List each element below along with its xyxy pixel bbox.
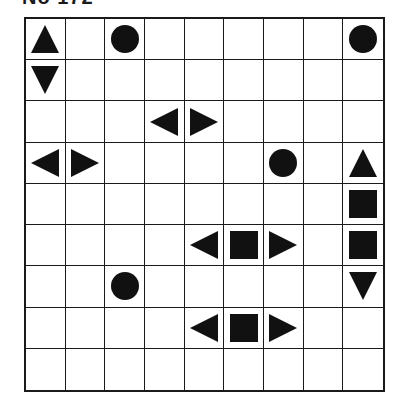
grid-cell-r6-c3[interactable] [145, 266, 185, 307]
grid-cell-r1-c5[interactable] [224, 60, 264, 101]
grid-cell-r0-c0[interactable] [26, 19, 66, 60]
grid-cell-r6-c5[interactable] [224, 266, 264, 307]
grid-cell-r2-c8[interactable] [343, 101, 383, 142]
grid-cell-r8-c7[interactable] [304, 349, 344, 390]
grid-cell-r3-c6[interactable] [264, 143, 304, 184]
grid-cell-r4-c8[interactable] [343, 184, 383, 225]
grid-cell-r8-c5[interactable] [224, 349, 264, 390]
grid-cell-r3-c2[interactable] [105, 143, 145, 184]
grid-cell-r5-c4[interactable] [185, 225, 225, 266]
grid-cell-r2-c3[interactable] [145, 101, 185, 142]
grid-cell-r1-c1[interactable] [66, 60, 106, 101]
grid-cell-r1-c8[interactable] [343, 60, 383, 101]
grid-cell-r0-c4[interactable] [185, 19, 225, 60]
grid-cell-r4-c7[interactable] [304, 184, 344, 225]
grid-cell-r8-c6[interactable] [264, 349, 304, 390]
grid-cell-r3-c7[interactable] [304, 143, 344, 184]
triangle-left-icon [189, 230, 219, 260]
grid-cell-r7-c3[interactable] [145, 308, 185, 349]
grid-cell-r6-c1[interactable] [66, 266, 106, 307]
grid-cell-r2-c7[interactable] [304, 101, 344, 142]
grid-cell-r6-c6[interactable] [264, 266, 304, 307]
grid-cell-r7-c7[interactable] [304, 308, 344, 349]
grid-cell-r6-c4[interactable] [185, 266, 225, 307]
grid-cell-r3-c3[interactable] [145, 143, 185, 184]
grid-cell-r2-c6[interactable] [264, 101, 304, 142]
grid-cell-r7-c2[interactable] [105, 308, 145, 349]
grid-cell-r0-c1[interactable] [66, 19, 106, 60]
grid-cell-r1-c6[interactable] [264, 60, 304, 101]
grid-cell-r5-c7[interactable] [304, 225, 344, 266]
grid-cell-r8-c8[interactable] [343, 349, 383, 390]
grid-cell-r6-c7[interactable] [304, 266, 344, 307]
grid-cell-r8-c4[interactable] [185, 349, 225, 390]
circle-icon [110, 271, 140, 301]
triangle-up-icon [348, 148, 378, 178]
grid-cell-r6-c8[interactable] [343, 266, 383, 307]
grid-cell-r2-c5[interactable] [224, 101, 264, 142]
grid-cell-r5-c1[interactable] [66, 225, 106, 266]
grid-cell-r4-c3[interactable] [145, 184, 185, 225]
grid-cell-r4-c0[interactable] [26, 184, 66, 225]
triangle-right-icon [268, 230, 298, 260]
triangle-right-icon [189, 107, 219, 137]
grid-cell-r2-c4[interactable] [185, 101, 225, 142]
grid-cell-r0-c7[interactable] [304, 19, 344, 60]
grid-cell-r1-c7[interactable] [304, 60, 344, 101]
grid-cell-r4-c2[interactable] [105, 184, 145, 225]
circle-icon [110, 24, 140, 54]
square-icon [229, 230, 259, 260]
grid-cell-r1-c0[interactable] [26, 60, 66, 101]
grid-cell-r1-c2[interactable] [105, 60, 145, 101]
grid-cell-r4-c5[interactable] [224, 184, 264, 225]
grid-cell-r7-c4[interactable] [185, 308, 225, 349]
grid-cell-r4-c6[interactable] [264, 184, 304, 225]
grid-cell-r6-c2[interactable] [105, 266, 145, 307]
grid-cell-r5-c3[interactable] [145, 225, 185, 266]
grid-cell-r8-c3[interactable] [145, 349, 185, 390]
grid-cell-r8-c1[interactable] [66, 349, 106, 390]
grid-cell-r5-c0[interactable] [26, 225, 66, 266]
grid-cell-r0-c2[interactable] [105, 19, 145, 60]
grid-cell-r2-c2[interactable] [105, 101, 145, 142]
grid-cell-r7-c8[interactable] [343, 308, 383, 349]
grid-cell-r5-c2[interactable] [105, 225, 145, 266]
grid-cell-r5-c8[interactable] [343, 225, 383, 266]
grid-cell-r3-c5[interactable] [224, 143, 264, 184]
grid-cell-r0-c6[interactable] [264, 19, 304, 60]
grid-cell-r2-c0[interactable] [26, 101, 66, 142]
grid-cell-r6-c0[interactable] [26, 266, 66, 307]
triangle-right-icon [70, 148, 100, 178]
grid-cell-r5-c5[interactable] [224, 225, 264, 266]
grid-cell-r1-c4[interactable] [185, 60, 225, 101]
triangle-right-icon [268, 313, 298, 343]
grid-cell-r4-c1[interactable] [66, 184, 106, 225]
grid-cell-r0-c8[interactable] [343, 19, 383, 60]
grid-cell-r1-c3[interactable] [145, 60, 185, 101]
grid-cell-r7-c1[interactable] [66, 308, 106, 349]
triangle-left-icon [189, 313, 219, 343]
triangle-down-icon [30, 65, 60, 95]
grid-cell-r3-c8[interactable] [343, 143, 383, 184]
triangle-left-icon [30, 148, 60, 178]
triangle-up-icon [30, 24, 60, 54]
grid-cell-r3-c4[interactable] [185, 143, 225, 184]
grid-cell-r7-c6[interactable] [264, 308, 304, 349]
grid-cell-r0-c3[interactable] [145, 19, 185, 60]
grid-cell-r3-c1[interactable] [66, 143, 106, 184]
triangle-left-icon [149, 107, 179, 137]
grid-cell-r8-c0[interactable] [26, 349, 66, 390]
grid-cell-r7-c5[interactable] [224, 308, 264, 349]
grid-cell-r0-c5[interactable] [224, 19, 264, 60]
grid-cell-r3-c0[interactable] [26, 143, 66, 184]
grid-cell-r8-c2[interactable] [105, 349, 145, 390]
grid-cell-r5-c6[interactable] [264, 225, 304, 266]
grid-cell-r7-c0[interactable] [26, 308, 66, 349]
puzzle-grid [24, 17, 385, 392]
grid-cell-r2-c1[interactable] [66, 101, 106, 142]
square-icon [229, 313, 259, 343]
grid-cell-r4-c4[interactable] [185, 184, 225, 225]
circle-icon [268, 148, 298, 178]
puzzle-number-label: No 172 [22, 0, 94, 7]
square-icon [348, 189, 378, 219]
